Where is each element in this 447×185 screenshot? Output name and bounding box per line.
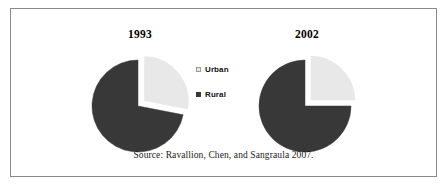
legend-item-urban: Urban bbox=[196, 62, 244, 76]
pie-title-2002: 2002 bbox=[242, 28, 372, 40]
source-caption: Source: Ravallion, Chen, and Sangraula 2… bbox=[10, 150, 437, 160]
legend-label-rural: Rural bbox=[205, 90, 226, 99]
urban-swatch-icon bbox=[196, 67, 201, 72]
figure-root: 1993 2002 Urban Rural Source: Ravallion,… bbox=[0, 0, 447, 185]
legend-label-urban: Urban bbox=[205, 65, 229, 74]
rural-swatch-icon bbox=[196, 92, 201, 97]
pie-panel-2002: 2002 bbox=[242, 28, 372, 158]
pie-chart-1993 bbox=[75, 42, 205, 154]
pie-title-1993: 1993 bbox=[75, 28, 205, 40]
pie-slice-2002-urban bbox=[310, 55, 356, 101]
legend-item-rural: Rural bbox=[196, 87, 244, 101]
chart-legend: Urban Rural bbox=[196, 62, 244, 112]
pie-panel-1993: 1993 bbox=[75, 28, 205, 158]
pie-chart-2002 bbox=[242, 42, 372, 154]
pie-slice-1993-urban bbox=[143, 56, 189, 111]
